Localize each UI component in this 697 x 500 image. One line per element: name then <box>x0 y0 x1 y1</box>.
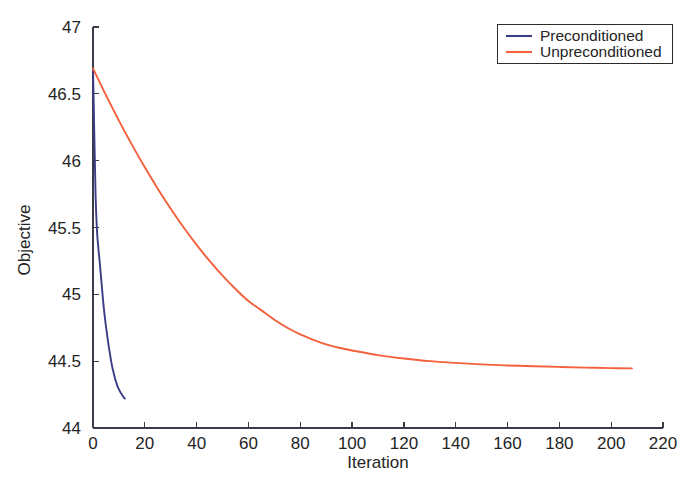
x-tick-label: 0 <box>88 434 97 453</box>
figure-container: 4444.54545.54646.547 0204060801001201401… <box>0 0 697 500</box>
x-tick-label: 180 <box>545 434 573 453</box>
x-tick-label: 60 <box>239 434 258 453</box>
chart-background <box>0 0 697 500</box>
x-axis-title: Iteration <box>347 453 408 472</box>
x-tick-label: 100 <box>338 434 366 453</box>
y-tick-label: 47 <box>62 18 81 37</box>
y-tick-label: 44.5 <box>48 352 81 371</box>
x-tick-label: 200 <box>597 434 625 453</box>
y-tick-label: 45.5 <box>48 219 81 238</box>
y-tick-label: 44 <box>62 419 81 438</box>
x-tick-label: 80 <box>291 434 310 453</box>
x-tick-label: 120 <box>390 434 418 453</box>
y-tick-label: 45 <box>62 285 81 304</box>
x-tick-label: 40 <box>187 434 206 453</box>
y-tick-label: 46 <box>62 152 81 171</box>
legend: Preconditioned Unpreconditioned <box>498 25 673 64</box>
x-tick-label: 220 <box>649 434 677 453</box>
line-chart: 4444.54545.54646.547 0204060801001201401… <box>0 0 697 500</box>
y-axis-title: Objective <box>15 205 34 276</box>
y-tick-label: 46.5 <box>48 85 81 104</box>
x-tick-label: 160 <box>493 434 521 453</box>
legend-label-preconditioned: Preconditioned <box>540 27 643 44</box>
x-tick-label: 20 <box>135 434 154 453</box>
x-tick-label: 140 <box>442 434 470 453</box>
legend-label-unpreconditioned: Unpreconditioned <box>540 43 662 60</box>
